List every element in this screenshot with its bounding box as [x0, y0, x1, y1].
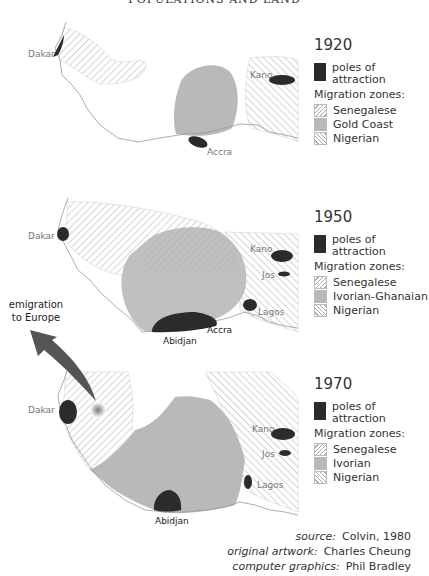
senegalese-zone — [59, 28, 146, 84]
city-label: Dakar — [28, 231, 55, 241]
graphics-value: Phil Bradley — [346, 560, 411, 573]
zone-label: Gold Coast — [333, 118, 393, 131]
pole-swatch — [314, 63, 326, 81]
pole-kano — [269, 75, 295, 85]
artwork-label: original artwork: — [227, 545, 318, 558]
city-label: Lagos — [258, 307, 285, 317]
city-label: Kano — [250, 70, 273, 80]
city-label: Accra — [207, 325, 232, 335]
legend-year: 1920 — [314, 36, 429, 54]
ivorian-swatch — [314, 457, 327, 470]
pole-dakar — [59, 400, 77, 424]
pole-jos — [279, 450, 291, 456]
source-value: Colvin, 1980 — [342, 530, 411, 543]
senegalese-swatch — [314, 104, 327, 117]
pole-swatch — [314, 235, 326, 253]
zone-label: Senegalese — [333, 276, 397, 289]
legend-1920: 1920 poles of attraction Migration zones… — [314, 36, 429, 145]
artwork-value: Charles Cheung — [324, 545, 411, 558]
ivorian-ghanaian-swatch — [314, 290, 327, 303]
zones-title: Migration zones: — [314, 260, 429, 273]
pole-label: poles of attraction — [332, 401, 402, 425]
city-label: Accra — [207, 147, 232, 157]
legend-1970: 1970 poles of attraction Migration zones… — [314, 375, 429, 484]
city-label: Kano — [252, 424, 275, 434]
senegalese-swatch — [314, 443, 327, 456]
zone-label: Nigerian — [333, 471, 379, 484]
zone-label: Nigerian — [333, 132, 379, 145]
pole-swatch — [314, 402, 326, 420]
pole-accra — [187, 134, 209, 150]
pole-label: poles of attraction — [332, 234, 402, 258]
city-label: Dakar — [28, 49, 55, 59]
legend-year: 1950 — [314, 208, 429, 226]
map-1970: Dakar Kano Jos Lagos Abidjan — [28, 330, 298, 526]
credits: source:Colvin, 1980 original artwork:Cha… — [227, 529, 411, 574]
nigerian-swatch — [314, 132, 327, 145]
legend-year: 1970 — [314, 375, 429, 393]
pole-kano — [271, 428, 295, 440]
nigerian-swatch — [314, 471, 327, 484]
nigerian-swatch — [314, 304, 327, 317]
pole-lagos — [243, 299, 257, 311]
zone-label: Ivorian — [333, 457, 371, 470]
city-label: Kano — [250, 244, 273, 254]
emigration-origin — [90, 402, 106, 418]
zone-label: Senegalese — [333, 443, 397, 456]
gold-coast-zone — [174, 65, 238, 135]
graphics-label: computer graphics: — [232, 560, 339, 573]
pole-jos — [278, 272, 290, 277]
zone-label: Senegalese — [333, 104, 397, 117]
map-1950: Dakar Kano Jos Lagos Accra Abidjan — [28, 198, 298, 346]
senegalese-swatch — [314, 276, 327, 289]
zones-title: Migration zones: — [314, 427, 429, 440]
legend-1950: 1950 poles of attraction Migration zones… — [314, 208, 429, 317]
pole-kano — [271, 250, 293, 262]
city-label: Jos — [261, 270, 275, 280]
city-label: Dakar — [28, 405, 55, 415]
map-1920: Dakar Accra Kano — [28, 22, 298, 157]
pole-dakar — [57, 227, 69, 241]
zone-label: Nigerian — [333, 304, 379, 317]
zones-title: Migration zones: — [314, 88, 429, 101]
gold-coast-swatch — [314, 118, 327, 131]
city-label: Jos — [261, 449, 275, 459]
zone-label: Ivorian-Ghanaian — [333, 290, 428, 303]
city-label: Abidjan — [155, 516, 189, 526]
pole-label: poles of attraction — [332, 62, 402, 86]
city-label: Abidjan — [163, 336, 197, 346]
source-label: source: — [296, 530, 336, 543]
pole-lagos — [244, 475, 252, 489]
emigration-label: emigration to Europe — [8, 298, 64, 324]
city-label: Lagos — [257, 480, 284, 490]
